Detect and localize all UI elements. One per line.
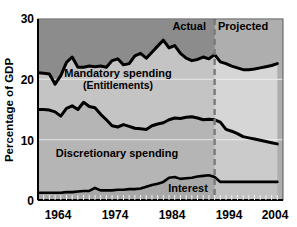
chart-container: 30 20 10 0 Percentage of GDP 1964 1974 1… <box>0 0 297 227</box>
x-tick-label-1984: 1984 <box>159 208 186 222</box>
spending-area-chart: 30 20 10 0 Percentage of GDP 1964 1974 1… <box>0 0 297 227</box>
y-tick-label-20: 20 <box>21 73 35 87</box>
y-axis-title: Percentage of GDP <box>3 58 15 162</box>
y-tick-label-0: 0 <box>27 194 34 208</box>
annotation-discretionary-spending: Discretionary spending <box>56 147 178 159</box>
x-tick-label-1974: 1974 <box>102 208 129 222</box>
y-tick-label-10: 10 <box>21 134 35 148</box>
annotation-entitlements: (Entitlements) <box>83 79 153 91</box>
projected-region-overlay <box>215 19 283 200</box>
annotation-projected: Projected <box>218 20 268 32</box>
x-tick-label-2004: 2004 <box>262 208 289 222</box>
y-tick-label-30: 30 <box>21 12 35 26</box>
annotation-interest: Interest <box>168 182 208 194</box>
x-tick-label-1964: 1964 <box>45 208 72 222</box>
annotation-mandatory-spending: Mandatory spending <box>64 67 172 79</box>
x-tick-label-1994: 1994 <box>216 208 243 222</box>
annotation-actual: Actual <box>172 20 206 32</box>
